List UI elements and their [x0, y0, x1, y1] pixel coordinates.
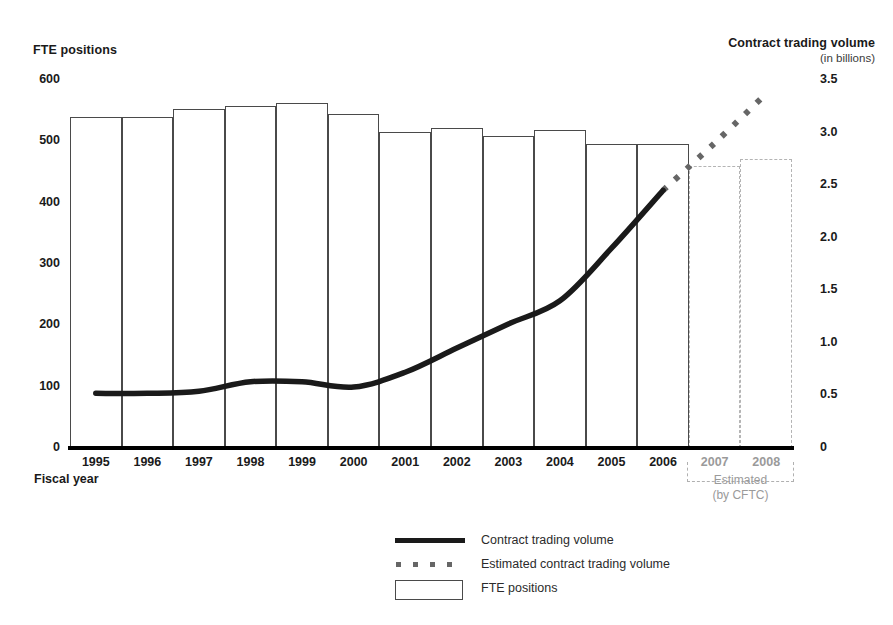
right-axis-tick-2.5: 2.5: [820, 177, 866, 191]
legend-key-1: [395, 531, 467, 549]
x-axis-tick-2001: 2001: [378, 455, 432, 469]
right-axis-tick-2.0: 2.0: [820, 230, 866, 244]
solid-line-icon: [395, 538, 465, 543]
legend-item-3: FTE positions: [395, 576, 815, 600]
x-axis-label: Fiscal year: [34, 472, 99, 486]
x-axis-tick-1997: 1997: [172, 455, 226, 469]
line-series-contract-trading-volume: [70, 80, 792, 448]
right-axis-tick-1.0: 1.0: [820, 335, 866, 349]
right-axis-tick-3.0: 3.0: [820, 125, 866, 139]
left-axis-tick-0: 0: [14, 440, 60, 454]
trading-volume-line: [96, 190, 663, 393]
legend-key-3: [395, 579, 467, 597]
legend-key-2: [395, 555, 467, 573]
legend-item-1: Contract trading volume: [395, 528, 815, 552]
left-axis-tick-500: 500: [14, 133, 60, 147]
dotted-line-icon: [396, 562, 464, 567]
right-axis-tick-3.5: 3.5: [820, 72, 866, 86]
right-axis-title: Contract trading volume: [728, 36, 875, 50]
right-axis-subtitle: (in billions): [820, 52, 875, 64]
chart-legend: Contract trading volumeEstimated contrac…: [395, 528, 815, 600]
plot-area: [70, 80, 792, 448]
x-axis-tick-1996: 1996: [120, 455, 174, 469]
legend-label-1: Contract trading volume: [481, 533, 614, 547]
x-axis-tick-1999: 1999: [275, 455, 329, 469]
left-axis-tick-100: 100: [14, 379, 60, 393]
estimated-note-line1: Estimated: [687, 473, 794, 488]
left-axis-title: FTE positions: [33, 43, 117, 57]
x-axis-baseline: [68, 446, 794, 450]
x-axis-tick-2002: 2002: [430, 455, 484, 469]
estimated-trading-volume-line: [663, 94, 766, 191]
legend-label-2: Estimated contract trading volume: [481, 557, 670, 571]
left-axis-tick-300: 300: [14, 256, 60, 270]
x-axis-tick-2000: 2000: [327, 455, 381, 469]
left-axis-tick-200: 200: [14, 317, 60, 331]
chart-container: FTE positions Contract trading volume (i…: [0, 0, 893, 625]
estimated-note: Estimated (by CFTC): [687, 473, 794, 503]
x-axis-tick-2003: 2003: [481, 455, 535, 469]
left-axis-tick-600: 600: [14, 72, 60, 86]
legend-item-2: Estimated contract trading volume: [395, 552, 815, 576]
x-axis-tick-2006: 2006: [636, 455, 690, 469]
right-axis-tick-1.5: 1.5: [820, 282, 866, 296]
right-axis-tick-0.5: 0.5: [820, 387, 866, 401]
x-axis-tick-2005: 2005: [585, 455, 639, 469]
x-axis-tick-2004: 2004: [533, 455, 587, 469]
x-axis-tick-1995: 1995: [69, 455, 123, 469]
right-axis-tick-0: 0: [820, 440, 866, 454]
legend-label-3: FTE positions: [481, 581, 557, 595]
left-axis-tick-400: 400: [14, 195, 60, 209]
estimated-note-line2: (by CFTC): [687, 488, 794, 503]
open-rectangle-icon: [395, 580, 463, 600]
x-axis-tick-1998: 1998: [224, 455, 278, 469]
